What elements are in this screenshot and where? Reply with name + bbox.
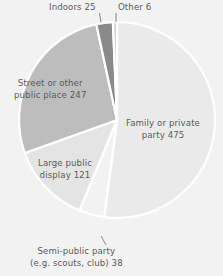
pie-label-large-line2: display 121 bbox=[38, 170, 92, 182]
pie-label-semi-line1: Semi-public party bbox=[30, 246, 123, 258]
pie-label-semi-line2: (e.g. scouts, club) 38 bbox=[30, 258, 123, 270]
pie-label-family-line1: Family or private bbox=[126, 118, 200, 130]
pie-label-other: Other 6 bbox=[118, 2, 151, 14]
pie-label-street-line1: Street or other bbox=[14, 78, 86, 90]
pie-label-other-text: Other 6 bbox=[118, 2, 151, 14]
pie-label-indoors: Indoors 25 bbox=[49, 2, 96, 14]
pie-label-indoors-text: Indoors 25 bbox=[49, 2, 96, 14]
pie-label-family-line2: party 475 bbox=[126, 130, 200, 142]
pie-label-street-or-other-public-place: Street or other public place 247 bbox=[14, 78, 86, 101]
leader-line-indoors bbox=[100, 13, 102, 22]
pie-label-family-or-private-party: Family or private party 475 bbox=[126, 118, 200, 141]
pie-chart: Family or private party 475 Street or ot… bbox=[0, 0, 223, 276]
leader-line-semi-public-party bbox=[101, 236, 106, 245]
pie-label-large-public-display: Large public display 121 bbox=[38, 158, 92, 181]
pie-label-large-line1: Large public bbox=[38, 158, 92, 170]
pie-label-semi-public-party: Semi-public party (e.g. scouts, club) 38 bbox=[30, 246, 123, 269]
pie-label-street-line2: public place 247 bbox=[14, 90, 86, 102]
